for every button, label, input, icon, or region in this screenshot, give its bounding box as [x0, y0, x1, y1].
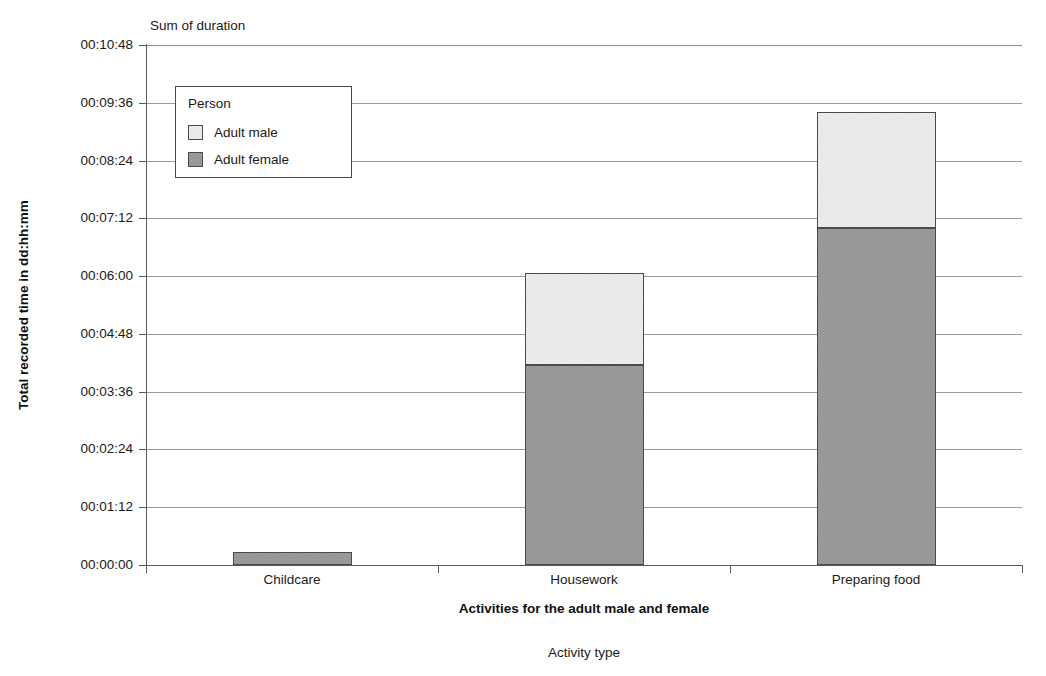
y-axis-tick: [139, 161, 146, 162]
y-axis-tick: [139, 103, 146, 104]
y-axis-tick: [139, 449, 146, 450]
y-axis-tick-label: 00:00:00: [80, 558, 133, 572]
y-axis-tick-label: 00:10:48: [80, 38, 133, 52]
legend-title: Person: [188, 96, 231, 111]
y-axis-tick: [139, 276, 146, 277]
y-axis-tick: [139, 507, 146, 508]
x-axis-tick-label: Childcare: [146, 573, 438, 588]
bar-segment-adult-female[interactable]: [525, 365, 644, 565]
chart-container: Sum of duration Total recorded time in d…: [0, 0, 1046, 676]
x-axis-tick: [146, 565, 147, 573]
outer-x-axis-title: Activity type: [146, 645, 1022, 660]
y-axis-tick-label: 00:01:12: [80, 500, 133, 514]
bar-segment-adult-female[interactable]: [233, 552, 352, 565]
y-axis-tick-label: 00:09:36: [80, 96, 133, 110]
y-axis-tick: [139, 218, 146, 219]
x-axis-tick-label: Housework: [438, 573, 730, 588]
y-axis-tick-label: 00:07:12: [80, 211, 133, 225]
x-axis-line: [145, 565, 1023, 566]
y-axis-tick-label: 00:03:36: [80, 385, 133, 399]
bar-segment-adult-male[interactable]: [525, 273, 644, 365]
legend-label-adult-female: Adult female: [214, 152, 289, 167]
legend: Person Adult male Adult female: [175, 86, 352, 178]
x-axis-tick: [730, 565, 731, 573]
x-axis-tick-label: Preparing food: [730, 573, 1022, 588]
bar-group[interactable]: [817, 45, 936, 565]
plot-caption: Sum of duration: [150, 18, 245, 33]
bar-segment-adult-female[interactable]: [817, 228, 936, 565]
y-axis-tick: [139, 565, 146, 566]
legend-label-adult-male: Adult male: [214, 125, 278, 140]
y-axis-tick: [139, 334, 146, 335]
y-axis-tick-label: 00:02:24: [80, 442, 133, 456]
legend-item-adult-male[interactable]: Adult male: [188, 123, 278, 141]
legend-item-adult-female[interactable]: Adult female: [188, 150, 289, 168]
y-axis-line: [146, 44, 147, 566]
y-axis-tick-label: 00:08:24: [80, 154, 133, 168]
legend-swatch-adult-female: [188, 152, 203, 167]
bar-segment-adult-male[interactable]: [817, 112, 936, 228]
legend-swatch-adult-male: [188, 125, 203, 140]
x-axis-title: Activities for the adult male and female: [146, 601, 1022, 616]
y-axis-tick-label: 00:04:48: [80, 327, 133, 341]
y-axis-tick: [139, 45, 146, 46]
y-axis-tick-label: 00:06:00: [80, 269, 133, 283]
x-axis-tick: [438, 565, 439, 573]
y-axis-title: Total recorded time in dd:hh:mm: [13, 45, 35, 565]
bar-group[interactable]: [525, 45, 644, 565]
y-axis-tick: [139, 392, 146, 393]
x-axis-tick: [1022, 565, 1023, 573]
